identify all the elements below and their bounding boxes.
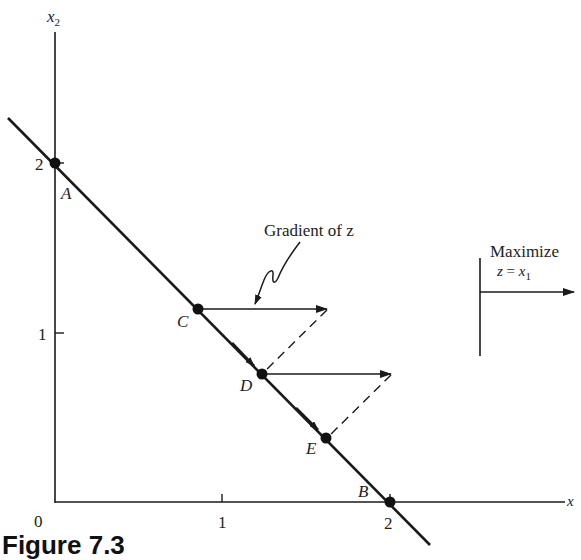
point-d (257, 369, 268, 380)
step-arrow-c-d (232, 343, 254, 366)
projection-dashed-c (264, 310, 327, 372)
y-tick-1: 1 (38, 326, 47, 343)
origin-label: 0 (34, 513, 43, 530)
point-a-label: A (61, 185, 71, 202)
point-b-label: B (358, 483, 368, 500)
point-a (50, 158, 61, 169)
objective-title: Maximize (490, 243, 559, 260)
projection-dashed-d (328, 375, 391, 437)
point-d-label: D (240, 377, 252, 394)
figure-caption: Figure 7.3 (2, 532, 125, 558)
step-arrow-d-e (296, 408, 318, 430)
objective-formula: z = x1 (497, 264, 531, 279)
gradient-pointer-squiggle (255, 242, 300, 304)
gradient-label: Gradient of z (264, 222, 354, 239)
point-b (385, 497, 396, 508)
point-c-label: C (177, 313, 188, 330)
x-axis-label: x (567, 494, 574, 509)
point-e (321, 433, 332, 444)
y-axis-label: x2 (47, 8, 60, 25)
x-tick-1: 1 (218, 514, 227, 531)
constraint-line (8, 118, 430, 545)
y-axis (55, 32, 64, 503)
x-tick-2: 2 (384, 515, 393, 532)
point-c (193, 304, 204, 315)
point-e-label: E (306, 440, 316, 457)
x-axis (55, 494, 565, 502)
y-tick-2: 2 (35, 156, 44, 173)
